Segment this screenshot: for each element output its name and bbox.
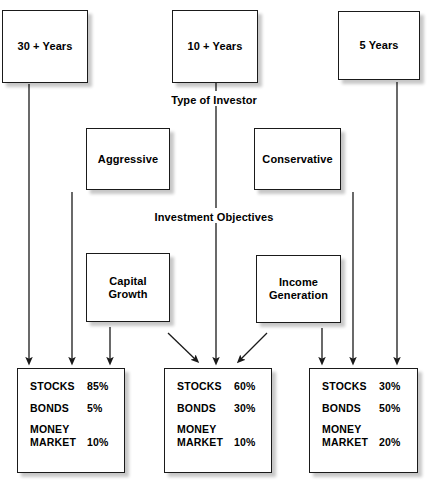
allocation-row: BONDS 30% — [177, 402, 271, 415]
time-horizon-label: 5 Years — [359, 39, 398, 52]
allocation-asset-percent: 50% — [379, 402, 401, 415]
allocation-asset-name: STOCKS — [177, 380, 234, 393]
allocation-box-aggressive[interactable]: STOCKS 85% BONDS 5% MONEY MARKET 10% — [17, 368, 125, 473]
allocation-asset-percent: 10% — [234, 436, 256, 449]
flowchart-canvas: 30 + Years 10 + Years 5 Years Type of In… — [0, 0, 428, 485]
allocation-asset-percent: 10% — [87, 436, 109, 449]
allocation-row: MONEY MARKET 10% — [177, 423, 271, 448]
time-horizon-box-30-years[interactable]: 30 + Years — [2, 10, 88, 83]
objective-box-capital-growth[interactable]: Capital Growth — [86, 253, 170, 322]
allocation-asset-percent: 20% — [379, 436, 401, 449]
investor-type-box-conservative[interactable]: Conservative — [254, 128, 341, 190]
objective-label: Income Generation — [269, 276, 328, 302]
allocation-asset-name: STOCKS — [30, 380, 87, 393]
stage-caption-type-of-investor: Type of Investor — [0, 94, 428, 106]
allocation-box-conservative[interactable]: STOCKS 30% BONDS 50% MONEY MARKET 20% — [309, 368, 418, 473]
allocation-row: STOCKS 30% — [322, 380, 417, 393]
allocation-asset-name: MONEY MARKET — [30, 423, 87, 448]
objective-label: Capital Growth — [108, 275, 147, 301]
investor-type-label: Conservative — [262, 153, 332, 166]
allocation-row: BONDS 50% — [322, 402, 417, 415]
allocation-asset-percent: 60% — [234, 380, 256, 393]
allocation-row: MONEY MARKET 20% — [322, 423, 417, 448]
allocation-asset-name: MONEY MARKET — [322, 423, 379, 448]
time-horizon-label: 30 + Years — [18, 40, 73, 53]
time-horizon-box-5-years[interactable]: 5 Years — [338, 11, 420, 80]
allocation-asset-name: BONDS — [177, 402, 234, 415]
connector-capital-growth-to-balanced-allocation — [168, 333, 196, 360]
allocation-asset-name: MONEY MARKET — [177, 423, 234, 448]
allocation-row: STOCKS 60% — [177, 380, 271, 393]
allocation-asset-percent: 30% — [379, 380, 401, 393]
allocation-row: BONDS 5% — [30, 402, 124, 415]
allocation-asset-name: BONDS — [30, 402, 87, 415]
connector-income-generation-to-balanced-allocation — [240, 333, 267, 360]
allocation-row: MONEY MARKET 10% — [30, 423, 124, 448]
allocation-row: STOCKS 85% — [30, 380, 124, 393]
allocation-asset-name: BONDS — [322, 402, 379, 415]
allocation-asset-percent: 30% — [234, 402, 256, 415]
allocation-box-balanced[interactable]: STOCKS 60% BONDS 30% MONEY MARKET 10% — [164, 368, 272, 473]
allocation-asset-percent: 5% — [87, 402, 103, 415]
objective-box-income-generation[interactable]: Income Generation — [256, 255, 341, 323]
allocation-asset-percent: 85% — [87, 380, 109, 393]
allocation-asset-name: STOCKS — [322, 380, 379, 393]
time-horizon-label: 10 + Years — [188, 40, 243, 53]
investor-type-label: Aggressive — [98, 153, 158, 166]
stage-caption-investment-objectives: Investment Objectives — [0, 211, 428, 223]
time-horizon-box-10-years[interactable]: 10 + Years — [172, 10, 258, 83]
investor-type-box-aggressive[interactable]: Aggressive — [86, 128, 170, 190]
